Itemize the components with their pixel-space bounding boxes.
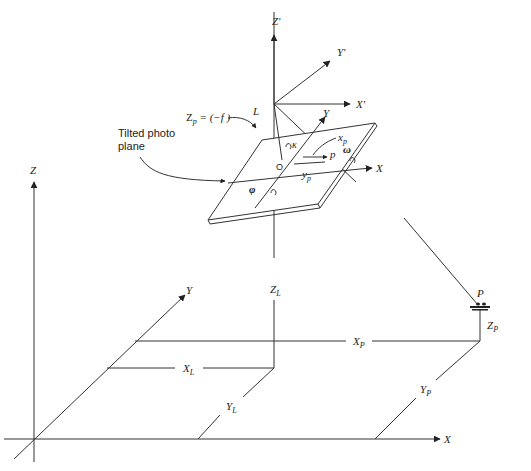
XL-label: XL — [182, 362, 195, 377]
YL-line-lower — [198, 415, 220, 439]
YP-label: YP — [420, 383, 431, 398]
phi-label: φ — [249, 183, 256, 195]
YP-line-lower — [375, 398, 416, 439]
focal-length-label: Zp = (−f ) — [186, 111, 231, 126]
YL-label: YL — [226, 400, 237, 415]
ground-z-label: Z — [30, 164, 37, 176]
focal-pointer-arrow — [228, 117, 256, 128]
x-prime-label: X' — [355, 98, 366, 110]
exposure-station-label: L — [252, 105, 259, 117]
image-point-label: p — [329, 148, 336, 160]
YL-line-upper — [243, 368, 274, 397]
omega-rotation-icon — [350, 158, 355, 163]
tilted-plane-label-line1: Tilted photo — [118, 127, 175, 139]
y-prime-axis — [274, 61, 330, 104]
ground-x-label: X — [443, 433, 452, 445]
photo-y-label: Y — [323, 107, 331, 119]
photogrammetry-diagram: Z Y X P ZP XP YP XL YL ZL — [0, 0, 531, 471]
projection-lines — [107, 12, 480, 439]
y-prime-label: Y' — [337, 46, 346, 58]
XP-label: XP — [352, 335, 365, 350]
ZP-label: ZP — [487, 319, 498, 334]
kappa-label: κ — [292, 139, 297, 150]
ground-y-label: Y — [186, 284, 194, 296]
origin-label: O — [276, 162, 283, 172]
photo-x-label: X — [375, 162, 384, 174]
ground-point-P — [470, 303, 490, 311]
ZL-label: ZL — [270, 283, 281, 298]
z-prime-label: Z' — [272, 15, 281, 27]
tilted-plane-pointer — [140, 157, 225, 181]
ground-coordinate-axes — [4, 182, 440, 462]
ground-y-axis — [14, 295, 185, 459]
ground-point-label: P — [476, 287, 484, 299]
ray-p-to-P — [404, 218, 478, 305]
YP-line-upper — [436, 341, 480, 380]
tilted-plane-label-line2: plane — [118, 140, 145, 152]
